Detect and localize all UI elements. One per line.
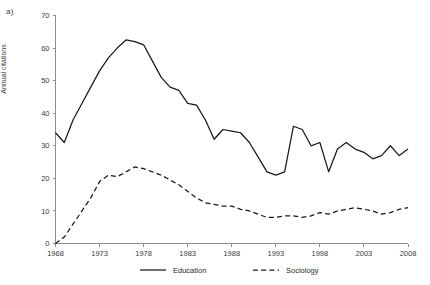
y-tick-label: 0 — [45, 239, 49, 248]
y-tick-label: 70 — [41, 11, 49, 20]
chart-legend: EducationSociology — [140, 266, 319, 275]
y-tick-label: 10 — [41, 207, 49, 216]
series-line-education — [56, 40, 409, 175]
x-tick-label: 1973 — [91, 249, 108, 258]
y-tick-label: 20 — [41, 174, 49, 183]
panel-label: a) — [6, 7, 14, 16]
y-tick-label: 60 — [41, 44, 49, 53]
x-tick-label: 2003 — [356, 249, 373, 258]
x-tick-group: 196819731978198319881993199820032008 — [47, 244, 416, 259]
y-axis-title: Annual citations — [0, 24, 7, 114]
x-tick-label: 2008 — [400, 249, 417, 258]
x-tick-label: 1978 — [135, 249, 152, 258]
y-tick-label: 40 — [41, 109, 49, 118]
x-axis: 196819731978198319881993199820032008 — [47, 244, 416, 259]
legend-label-education: Education — [173, 266, 206, 275]
line-chart: 010203040506070 196819731978198319881993… — [0, 0, 430, 285]
x-tick-label: 1998 — [312, 249, 329, 258]
series-line-sociology — [56, 167, 409, 244]
x-tick-label: 1988 — [223, 249, 240, 258]
y-tick-label: 30 — [41, 141, 49, 150]
x-tick-label: 1983 — [179, 249, 196, 258]
y-axis: 010203040506070 — [41, 11, 55, 248]
x-tick-label: 1993 — [267, 249, 284, 258]
x-tick-label: 1968 — [47, 249, 64, 258]
y-tick-label: 50 — [41, 76, 49, 85]
legend-label-sociology: Sociology — [286, 266, 319, 275]
y-tick-group: 010203040506070 — [41, 11, 55, 248]
figure-panel-a: a) Annual citations 010203040506070 1968… — [0, 0, 430, 285]
series-group — [56, 40, 409, 244]
